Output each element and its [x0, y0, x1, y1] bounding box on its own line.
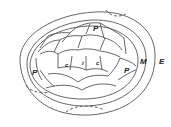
label-c-right: c: [96, 60, 99, 66]
outer-layer-boundary: [20, 12, 155, 115]
label-m: M: [140, 58, 147, 66]
label-p-left: P: [32, 69, 37, 77]
label-p-right: P: [124, 67, 129, 75]
label-i-center: i: [82, 60, 84, 66]
dashed-arc-bottom: [66, 106, 104, 112]
label-p-top: P: [93, 25, 98, 33]
label-c-left: c: [65, 62, 68, 68]
label-e: E: [159, 58, 164, 66]
